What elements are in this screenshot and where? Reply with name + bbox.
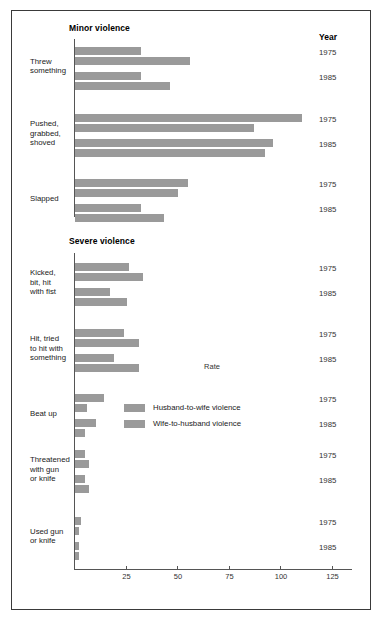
year-label-1975: 1975 [319,48,336,57]
year-label-1985: 1985 [319,355,336,364]
year-label-1985: 1985 [319,289,336,298]
year-label-1975: 1975 [319,395,336,404]
legend-label: Husband-to-wife violence [153,403,241,412]
year-labels-layer: 1975198519751985197519851975198519751985… [12,11,370,609]
year-label-1975: 1975 [319,518,336,527]
year-label-1985: 1985 [319,476,336,485]
legend-swatch [124,404,145,412]
year-label-1985: 1985 [319,140,336,149]
year-label-1985: 1985 [319,73,336,82]
legend-label: Wife-to-husband violence [153,419,241,428]
year-label-1975: 1975 [319,264,336,273]
year-label-1985: 1985 [319,543,336,552]
year-label-1975: 1975 [319,180,336,189]
year-label-1985: 1985 [319,205,336,214]
year-label-1975: 1975 [319,451,336,460]
year-label-1975: 1975 [319,330,336,339]
year-label-1985: 1985 [319,420,336,429]
year-label-1975: 1975 [319,115,336,124]
legend-swatch [124,420,145,428]
chart-figure: Minor violence Year Severe violence 2550… [11,10,371,610]
